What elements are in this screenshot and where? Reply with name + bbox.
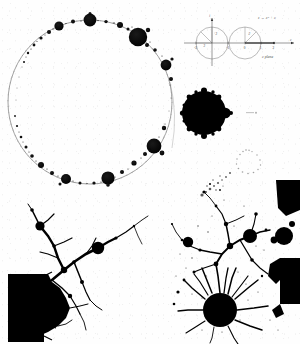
figure-plate: -2 -1 0 1 2 3 2 3 i c z → z² + c c plane bbox=[0, 0, 300, 344]
figure-decorated-circle bbox=[2, 6, 182, 196]
large-bulb-body bbox=[180, 88, 233, 140]
right-circle-radius-a bbox=[245, 32, 256, 43]
real-axis-arrow bbox=[291, 42, 294, 44]
dendrite-core-block bbox=[8, 274, 44, 342]
figure-complex-plane-diagram: -2 -1 0 1 2 3 2 3 i c z → z² + c c plane bbox=[182, 10, 298, 72]
tick-label-2: 0 bbox=[244, 46, 246, 50]
tick-label-1: -1 bbox=[226, 46, 229, 50]
needle-mark bbox=[246, 112, 257, 114]
figure-dendrite-detail bbox=[8, 196, 154, 342]
sector-label-lower: 3 bbox=[204, 44, 206, 48]
tick-label-0: -2 bbox=[194, 46, 197, 50]
sector-label-right: 2 bbox=[249, 32, 251, 36]
figure-spiral-boundary-detail bbox=[158, 180, 300, 344]
spiral-right-band bbox=[268, 180, 300, 318]
axis-endpoint-dot bbox=[273, 42, 275, 44]
spiral-hub bbox=[203, 293, 237, 327]
sector-label-left: 3 bbox=[216, 32, 218, 36]
real-axis-label: c bbox=[290, 38, 292, 42]
tick-label-4: 2 bbox=[273, 46, 275, 50]
ring-dots bbox=[236, 149, 261, 174]
passing-arc bbox=[170, 82, 175, 148]
left-circle-radius-a bbox=[201, 32, 212, 43]
tick-label-3: 1 bbox=[260, 46, 262, 50]
imaginary-axis-arrow bbox=[211, 18, 213, 21]
diagram-formula: z → z² + c bbox=[257, 16, 276, 20]
figure-large-bulb bbox=[168, 78, 264, 150]
diagram-plane-label: c plane bbox=[262, 55, 273, 59]
imaginary-axis-label: i bbox=[209, 14, 210, 18]
